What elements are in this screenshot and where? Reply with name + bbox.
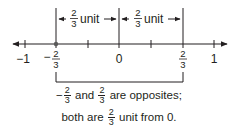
tick-label-2-3: 2 3 [179,48,187,70]
distance-label-right: 2 3 unit [134,7,164,29]
caption-line-2: both are 23 unit from 0. [0,108,238,127]
svg-text:3: 3 [180,59,185,70]
tick-label-0: 0 [116,52,123,66]
caption-line-1: −23 and 23 are opposites; [0,86,238,105]
svg-text:2: 2 [180,48,185,59]
fraction: 23 [98,86,105,105]
tick-label-1: 1 [211,52,218,66]
svg-text:unit: unit [80,12,100,26]
svg-text:2: 2 [135,7,140,18]
tick-label-neg-2-3: − 2 3 [43,48,60,70]
fraction: 23 [108,108,115,127]
svg-text:2: 2 [71,7,76,18]
svg-text:3: 3 [53,59,58,70]
svg-text:3: 3 [135,18,140,29]
svg-text:−: − [43,50,50,64]
opposites-bracket [56,72,183,82]
tick-label-neg-1: −1 [16,52,30,66]
svg-text:unit: unit [144,12,164,26]
point-neg-2-3 [54,42,58,46]
svg-text:3: 3 [71,18,76,29]
fraction: 23 [64,86,71,105]
distance-label-left: 2 3 unit [70,7,100,29]
svg-text:2: 2 [53,48,58,59]
